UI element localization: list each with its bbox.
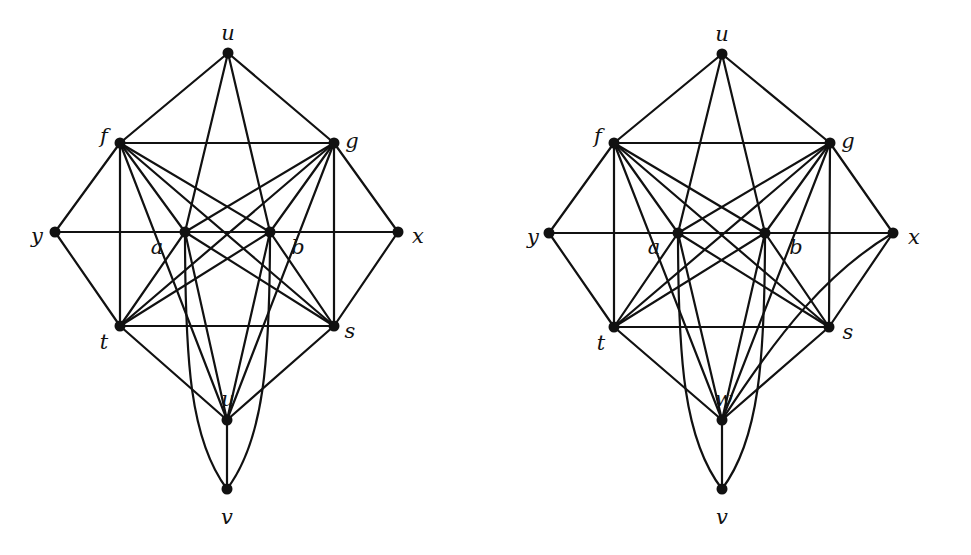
vertex-s [329, 321, 340, 332]
vertex-label-w: u [221, 387, 235, 411]
vertex-label-w: w [715, 387, 733, 411]
edge-f-a [614, 143, 678, 233]
edge-f-b [614, 143, 765, 233]
vertex-label-s: s [345, 319, 356, 343]
vertex-label-x: x [908, 225, 920, 249]
vertex-label-v: v [221, 505, 233, 529]
vertex-label-f: f [592, 124, 605, 148]
edge-s-w [227, 326, 334, 420]
vertex-label-y: y [526, 225, 540, 249]
edge-u-g [228, 53, 334, 143]
edge-s-w [722, 327, 829, 420]
edge-g-w [722, 143, 830, 420]
vertex-x [888, 228, 899, 239]
vertex-label-x: x [412, 224, 424, 248]
edge-x-s [334, 232, 398, 326]
edge-g-x [334, 143, 398, 232]
edge-t-w [614, 327, 722, 420]
edge-f-a [120, 143, 185, 232]
vertex-label-t: t [100, 330, 109, 354]
edge-g-w [227, 143, 334, 420]
vertex-g [329, 138, 340, 149]
vertex-label-f: f [98, 124, 111, 148]
edge-f-y [549, 143, 614, 233]
vertex-label-a: a [648, 235, 661, 259]
edge-x-s [829, 233, 893, 327]
vertex-label-v: v [716, 505, 728, 529]
edge-u-f [614, 54, 722, 143]
edge-g-s [829, 143, 830, 327]
vertex-v [222, 484, 233, 495]
vertex-b [265, 227, 276, 238]
vertex-label-u: u [715, 22, 729, 46]
curved-edge-a-v [185, 232, 227, 489]
edge-g-b [765, 143, 830, 233]
vertex-a [180, 227, 191, 238]
edge-g-b [270, 143, 334, 232]
curved-edge-b-v [722, 233, 765, 489]
graph-right: ufgyabxtswv [526, 22, 920, 529]
vertex-b [760, 228, 771, 239]
edge-u-g [722, 54, 830, 143]
edge-y-t [55, 232, 120, 326]
edge-g-x [830, 143, 893, 233]
vertex-label-b: b [291, 235, 304, 259]
edge-g-a [678, 143, 830, 233]
vertex-t [609, 322, 620, 333]
vertex-label-u: u [221, 21, 235, 45]
vertex-w [222, 415, 233, 426]
vertex-s [824, 322, 835, 333]
vertex-w [717, 415, 728, 426]
vertex-label-t: t [597, 331, 606, 355]
edge-u-f [120, 53, 228, 143]
edge-f-y [55, 143, 120, 232]
vertex-label-y: y [30, 224, 44, 248]
vertex-u [223, 48, 234, 59]
vertex-u [717, 49, 728, 60]
vertex-t [115, 321, 126, 332]
vertex-a [673, 228, 684, 239]
vertex-label-a: a [151, 235, 164, 259]
vertex-y [544, 228, 555, 239]
vertex-label-s: s [843, 320, 854, 344]
vertex-label-g: g [841, 129, 854, 153]
edge-y-t [549, 233, 614, 327]
vertex-x [393, 227, 404, 238]
vertex-v [717, 484, 728, 495]
edge-f-b [120, 143, 270, 232]
graph-left: ufgyabxtsuv [30, 21, 424, 529]
vertex-f [115, 138, 126, 149]
graph-diagram: ufgyabxtsuv ufgyabxtswv [0, 0, 971, 555]
vertex-g [825, 138, 836, 149]
edge-g-a [185, 143, 334, 232]
vertex-label-g: g [345, 129, 358, 153]
vertex-y [50, 227, 61, 238]
vertex-f [609, 138, 620, 149]
curved-edge-b-v [227, 232, 270, 489]
vertex-label-b: b [789, 235, 802, 259]
edge-t-w [120, 326, 227, 420]
